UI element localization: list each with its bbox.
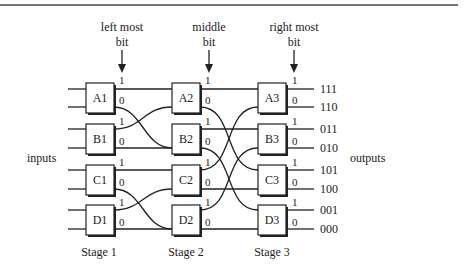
switch-A1: A1 xyxy=(86,83,116,115)
port-label-0: 0 xyxy=(292,94,298,106)
bit-label-text: bit xyxy=(116,35,129,49)
bit-label-left: left most bit xyxy=(101,20,144,73)
port-label-0: 0 xyxy=(119,216,125,228)
switch-label: C1 xyxy=(93,173,107,187)
stage-label-1: Stage 1 xyxy=(81,245,117,259)
port-label-1: 1 xyxy=(292,115,298,127)
switch-A3: A3 xyxy=(258,83,288,115)
bit-label-text: left most xyxy=(101,20,144,34)
port-label-1: 1 xyxy=(292,196,298,208)
port-label-0: 0 xyxy=(205,176,211,188)
port-label-1: 1 xyxy=(119,196,125,208)
bit-label-text: right most xyxy=(269,20,319,34)
port-label-0: 0 xyxy=(119,94,125,106)
port-label-1: 1 xyxy=(205,196,211,208)
switch-B3: B3 xyxy=(258,124,288,156)
switch-A2: A2 xyxy=(172,83,202,115)
port-label-1: 1 xyxy=(205,74,211,86)
output-address: 000 xyxy=(320,222,338,236)
output-address: 010 xyxy=(320,141,338,155)
switch-C2: C2 xyxy=(172,165,202,197)
switch-label: B2 xyxy=(179,132,193,146)
output-wires xyxy=(286,89,314,229)
output-address: 100 xyxy=(320,182,338,196)
bit-label-text: middle xyxy=(192,20,225,34)
bit-label-text: bit xyxy=(203,35,216,49)
output-addresses: 111 110 011 010 101 100 001 000 xyxy=(320,82,338,236)
bit-label-text: bit xyxy=(288,35,301,49)
down-arrow-icon xyxy=(118,50,126,73)
down-arrow-icon xyxy=(205,50,213,73)
port-label-1: 1 xyxy=(205,115,211,127)
switch-label: D2 xyxy=(179,213,194,227)
omega-network-diagram: left most bit middle bit right most bit … xyxy=(0,0,465,268)
switch-D1: D1 xyxy=(86,205,116,237)
stage-1: A1 B1 C1 D1 xyxy=(86,83,116,237)
switch-label: A2 xyxy=(179,91,194,105)
output-address: 011 xyxy=(320,122,338,136)
output-address: 110 xyxy=(320,100,338,114)
stage-2: A2 B2 C2 D2 xyxy=(172,83,202,237)
port-label-1: 1 xyxy=(119,115,125,127)
switch-C3: C3 xyxy=(258,165,288,197)
outputs-label: outputs xyxy=(350,151,386,165)
output-address: 111 xyxy=(320,82,337,96)
port-label-1: 1 xyxy=(119,74,125,86)
port-label-0: 0 xyxy=(205,94,211,106)
port-label-0: 0 xyxy=(119,135,125,147)
port-label-1: 1 xyxy=(205,156,211,168)
switch-label: D3 xyxy=(265,213,280,227)
down-arrow-icon xyxy=(290,50,298,73)
switch-D3: D3 xyxy=(258,205,288,237)
stage-label-3: Stage 3 xyxy=(254,245,290,259)
switch-label: C2 xyxy=(179,173,193,187)
switch-label: D1 xyxy=(93,213,108,227)
port-label-1: 1 xyxy=(292,156,298,168)
stage-3: A3 B3 C3 D3 xyxy=(258,83,288,237)
bit-label-middle: middle bit xyxy=(192,20,225,73)
input-wires xyxy=(68,89,86,229)
switch-C1: C1 xyxy=(86,165,116,197)
bit-label-right: right most bit xyxy=(269,20,319,73)
switch-label: C3 xyxy=(265,173,279,187)
output-address: 001 xyxy=(320,203,338,217)
switch-B1: B1 xyxy=(86,124,116,156)
port-label-1: 1 xyxy=(292,74,298,86)
switch-B2: B2 xyxy=(172,124,202,156)
port-label-0: 0 xyxy=(292,216,298,228)
port-label-0: 0 xyxy=(205,216,211,228)
switch-label: B3 xyxy=(265,132,279,146)
switch-label: A3 xyxy=(265,91,280,105)
switch-label: A1 xyxy=(93,91,108,105)
port-label-0: 0 xyxy=(205,135,211,147)
output-address: 101 xyxy=(320,163,338,177)
port-label-0: 0 xyxy=(119,176,125,188)
port-label-0: 0 xyxy=(292,176,298,188)
port-label-1: 1 xyxy=(119,156,125,168)
port-label-0: 0 xyxy=(292,135,298,147)
stage-label-2: Stage 2 xyxy=(168,245,204,259)
inputs-label: inputs xyxy=(27,151,57,165)
switch-D2: D2 xyxy=(172,205,202,237)
switch-label: B1 xyxy=(93,132,107,146)
